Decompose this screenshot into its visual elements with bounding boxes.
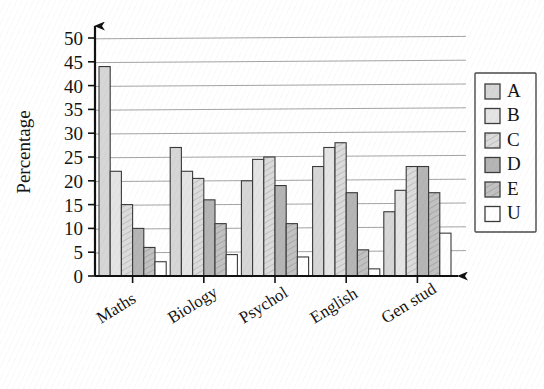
- y-axis-tick-label: 10: [64, 218, 83, 239]
- legend-label-d: D: [507, 153, 521, 174]
- bar-gen-stud-b: [395, 190, 406, 276]
- bar-biology-u: [226, 255, 237, 276]
- y-axis-title: Percentage: [13, 110, 34, 193]
- bar-biology-c: [193, 178, 204, 276]
- bar-english-d: [346, 193, 357, 276]
- legend-swatch-a: [485, 84, 500, 99]
- bar-english-c: [335, 143, 346, 276]
- bar-maths-u: [155, 262, 166, 276]
- bar-psychol-b: [253, 159, 264, 276]
- legend-swatch-e: [485, 182, 500, 197]
- legend-label-c: C: [507, 129, 520, 150]
- bar-psychol-a: [241, 181, 252, 276]
- legend-label-a: A: [507, 80, 521, 101]
- bar-gen-stud-u: [440, 233, 451, 276]
- bar-maths-b: [110, 171, 121, 276]
- y-axis-tick-label: 20: [64, 171, 83, 192]
- bar-psychol-d: [275, 186, 286, 276]
- bar-psychol-u: [297, 257, 308, 276]
- bar-psychol-c: [264, 157, 275, 276]
- bar-maths-d: [133, 228, 144, 276]
- y-axis-tick-label: 45: [64, 52, 83, 73]
- bar-gen-stud-e: [429, 193, 440, 276]
- bar-biology-e: [215, 224, 226, 276]
- bar-english-e: [357, 250, 368, 276]
- bar-biology-a: [170, 147, 181, 276]
- legend-label-e: E: [507, 178, 519, 199]
- bar-maths-a: [99, 67, 110, 276]
- chart-root: 05101520253035404550 Percentage MathsBio…: [0, 0, 544, 389]
- bar-chart: 05101520253035404550 Percentage MathsBio…: [0, 0, 544, 389]
- y-axis-tick-label: 15: [64, 195, 83, 216]
- bar-english-a: [313, 167, 324, 276]
- bar-biology-b: [181, 171, 192, 276]
- bar-gen-stud-c: [406, 167, 417, 276]
- y-axis-tick-label: 5: [74, 242, 84, 263]
- chart-legend: ABCDEU: [475, 73, 536, 232]
- y-axis-tick-label: 40: [64, 76, 83, 97]
- bar-psychol-e: [286, 224, 297, 276]
- bar-gen-stud-a: [384, 212, 395, 276]
- legend-swatch-u: [485, 207, 500, 222]
- bar-english-b: [324, 147, 335, 276]
- legend-swatch-d: [485, 158, 500, 173]
- legend-label-b: B: [507, 104, 520, 125]
- y-axis-tick-label: 50: [64, 28, 83, 49]
- y-axis-tick-label: 25: [64, 147, 83, 168]
- bar-maths-e: [144, 247, 155, 276]
- y-axis-tick-label: 35: [64, 99, 83, 120]
- bar-gen-stud-d: [417, 167, 428, 276]
- bar-biology-d: [204, 200, 215, 276]
- legend-swatch-c: [485, 133, 500, 148]
- bar-maths-c: [121, 205, 132, 276]
- legend-label-u: U: [507, 202, 521, 223]
- y-axis-tick-label: 30: [64, 123, 83, 144]
- legend-border: [475, 73, 536, 232]
- legend-swatch-b: [485, 109, 500, 124]
- y-axis-tick-label: 0: [74, 266, 84, 287]
